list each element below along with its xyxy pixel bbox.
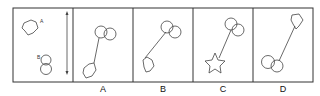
reference-label-b: B bbox=[37, 54, 41, 60]
arrow-head-up-icon bbox=[66, 11, 69, 15]
reference-panel bbox=[22, 11, 69, 75]
option-a-label[interactable]: A bbox=[73, 84, 133, 94]
figure-puzzle: A B bbox=[0, 0, 320, 96]
option-c-figure[interactable] bbox=[205, 18, 244, 73]
option-d-figure[interactable] bbox=[262, 14, 304, 72]
arrow-head-down-icon bbox=[66, 71, 69, 75]
option-a-figure[interactable] bbox=[83, 26, 116, 78]
option-d-label[interactable]: D bbox=[253, 84, 313, 94]
option-b-figure[interactable] bbox=[143, 21, 181, 72]
polygon-a-icon bbox=[22, 20, 38, 35]
option-b-label[interactable]: B bbox=[133, 84, 193, 94]
option-c-label[interactable]: C bbox=[193, 84, 253, 94]
reference-label-a: A bbox=[40, 18, 44, 24]
outer-frame bbox=[13, 8, 313, 82]
